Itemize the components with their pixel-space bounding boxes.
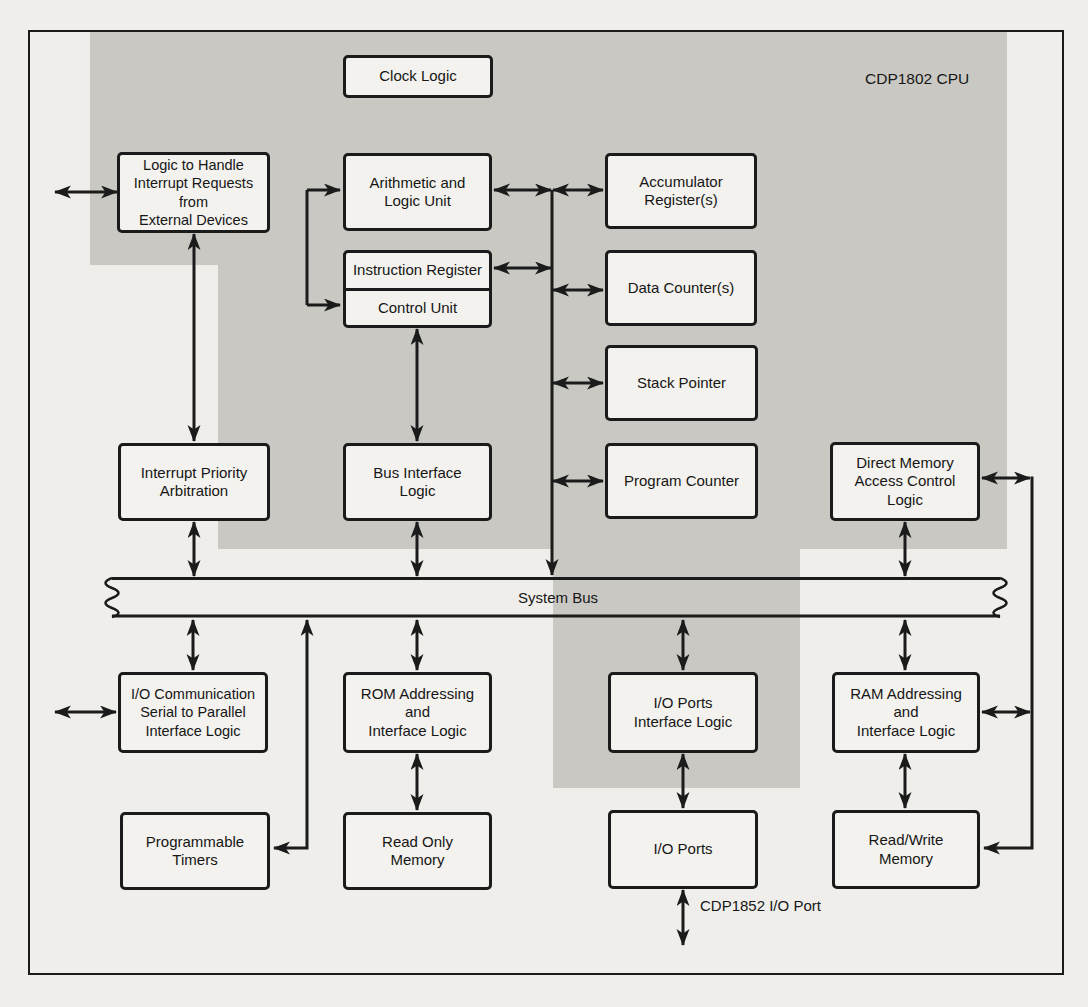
system-bus-label: System Bus: [518, 589, 598, 606]
box-clock-logic: Clock Logic: [343, 55, 493, 98]
box-instruction-register-control-unit: Instruction Register Control Unit: [343, 250, 492, 328]
box-io-ports: I/O Ports: [608, 810, 758, 889]
box-data-counters-label: Data Counter(s): [628, 279, 735, 297]
control-unit-label: Control Unit: [378, 299, 457, 317]
box-accumulator-label: Accumulator Register(s): [639, 173, 722, 210]
box-interrupt-priority-arbitration: Interrupt Priority Arbitration: [118, 443, 270, 521]
box-programmable-timers-label: Programmable Timers: [146, 833, 244, 870]
box-alu-label: Arithmetic and Logic Unit: [370, 174, 466, 211]
box-read-only-memory-label: Read Only Memory: [382, 833, 453, 870]
box-accumulator: Accumulator Register(s): [605, 153, 757, 229]
box-clock-logic-label: Clock Logic: [379, 67, 457, 85]
box-bus-interface-logic: Bus Interface Logic: [343, 443, 492, 521]
box-read-write-memory: Read/Write Memory: [832, 810, 980, 889]
box-ram-addressing: RAM Addressing and Interface Logic: [832, 672, 980, 753]
box-data-counters: Data Counter(s): [605, 250, 757, 326]
box-stack-pointer-label: Stack Pointer: [637, 374, 726, 392]
box-bus-interface-logic-label: Bus Interface Logic: [373, 464, 461, 501]
box-program-counter: Program Counter: [605, 443, 758, 519]
instruction-register-label: Instruction Register: [353, 261, 482, 279]
box-io-ports-interface-logic: I/O Ports Interface Logic: [608, 672, 758, 753]
box-io-communication-label: I/O Communication Serial to Parallel Int…: [131, 685, 255, 739]
box-interrupt-request-logic: Logic to Handle Interrupt Requests from …: [117, 152, 270, 233]
cpu-chip-label: CDP1802 CPU: [865, 70, 969, 88]
box-program-counter-label: Program Counter: [624, 472, 739, 490]
box-read-only-memory: Read Only Memory: [343, 812, 492, 890]
box-dma-control-logic: Direct Memory Access Control Logic: [830, 442, 980, 521]
box-programmable-timers: Programmable Timers: [120, 812, 270, 890]
cpu-block-diagram: Clock Logic Logic to Handle Interrupt Re…: [0, 0, 1088, 1007]
box-io-ports-interface-logic-label: I/O Ports Interface Logic: [634, 694, 732, 731]
box-read-write-memory-label: Read/Write Memory: [869, 831, 944, 868]
box-io-communication: I/O Communication Serial to Parallel Int…: [118, 672, 268, 753]
box-dma-control-logic-label: Direct Memory Access Control Logic: [855, 454, 956, 509]
box-interrupt-priority-arbitration-label: Interrupt Priority Arbitration: [141, 464, 248, 501]
box-interrupt-request-logic-label: Logic to Handle Interrupt Requests from …: [134, 156, 253, 229]
box-rom-addressing-label: ROM Addressing and Interface Logic: [361, 685, 474, 740]
box-ram-addressing-label: RAM Addressing and Interface Logic: [850, 685, 962, 740]
box-rom-addressing: ROM Addressing and Interface Logic: [343, 672, 492, 753]
box-io-ports-label: I/O Ports: [653, 840, 712, 858]
io-port-chip-label: CDP1852 I/O Port: [700, 897, 821, 914]
instruction-register-cell: Instruction Register: [346, 253, 489, 288]
box-stack-pointer: Stack Pointer: [605, 345, 758, 421]
control-unit-cell: Control Unit: [346, 288, 489, 326]
box-alu: Arithmetic and Logic Unit: [343, 153, 492, 231]
